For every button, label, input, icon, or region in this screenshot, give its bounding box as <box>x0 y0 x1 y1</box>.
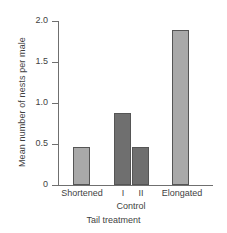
y-axis-tick-label: 1.5 <box>35 57 48 66</box>
bar-elongated <box>172 30 189 185</box>
x-axis-group-label: Control <box>98 201 164 211</box>
y-axis-tick-label: 0 <box>43 180 48 189</box>
bar-i <box>114 113 131 185</box>
x-axis-title: Tail treatment <box>0 215 227 225</box>
y-axis-tick-label: 2.0 <box>35 16 48 25</box>
x-axis-tick-label: Shortened <box>56 188 108 199</box>
y-axis-tick-label: 0.5 <box>35 139 48 148</box>
y-axis-tick <box>52 185 58 186</box>
x-axis-tick-label: I <box>115 188 131 199</box>
x-axis-tick-label: Elongated <box>155 188 209 199</box>
bar-chart-figure: Mean number of nests per male 00.51.01.5… <box>0 0 227 233</box>
y-axis-title: Mean number of nests per male <box>17 17 27 187</box>
bar-shortened <box>73 147 90 185</box>
x-axis-line <box>58 185 213 186</box>
x-axis-tick-label: II <box>133 188 149 199</box>
bars-layer <box>58 21 213 185</box>
y-axis-tick-label: 1.0 <box>35 98 48 107</box>
bar-ii <box>132 147 149 185</box>
